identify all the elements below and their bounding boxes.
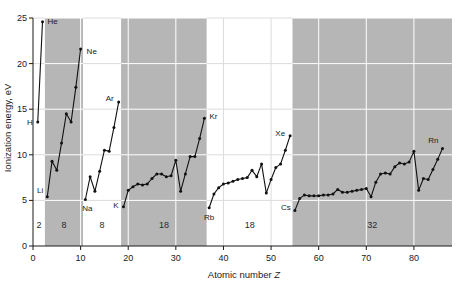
data-point-z-20	[127, 189, 130, 192]
data-point-z-16	[108, 150, 111, 153]
data-point-z-78	[403, 162, 406, 165]
data-point-z-85	[436, 158, 439, 161]
data-point-z-64	[336, 188, 339, 191]
element-label-he: He	[48, 17, 59, 26]
data-point-z-15	[103, 149, 106, 152]
data-point-z-55	[293, 209, 296, 212]
data-point-z-84	[431, 168, 434, 171]
data-point-z-21	[131, 185, 134, 188]
data-point-z-18	[117, 100, 120, 103]
element-label-na: Na	[82, 204, 93, 213]
y-tick-label-0: 0	[22, 241, 27, 251]
data-point-z-59	[312, 194, 315, 197]
data-point-z-83	[427, 178, 430, 181]
period-count-label-5: 18	[245, 220, 255, 230]
element-label-h: H	[27, 118, 33, 127]
x-tick-label-80: 80	[409, 253, 419, 263]
element-label-xe: Xe	[275, 129, 285, 138]
period-count-label-6: 32	[367, 220, 377, 230]
data-point-z-9	[74, 86, 77, 89]
data-point-z-48	[260, 162, 263, 165]
data-point-z-71	[370, 195, 373, 198]
data-point-z-51	[274, 166, 277, 169]
x-axis-symbol: Z	[273, 269, 281, 280]
x-tick-label-70: 70	[361, 253, 371, 263]
data-point-z-73	[379, 172, 382, 175]
y-axis-title: Ionization energy, eV	[2, 83, 13, 172]
data-point-z-72	[374, 181, 377, 184]
data-point-z-80	[412, 150, 415, 153]
data-point-z-31	[179, 190, 182, 193]
data-point-z-11	[84, 198, 87, 201]
data-point-z-53	[284, 149, 287, 152]
data-point-z-70	[365, 187, 368, 190]
element-label-ar: Ar	[106, 94, 114, 103]
data-point-z-52	[279, 162, 282, 165]
period-count-label-4: 18	[159, 220, 169, 230]
element-label-li: Li	[37, 186, 43, 195]
data-point-z-35	[198, 137, 201, 140]
data-point-z-79	[408, 161, 411, 164]
data-point-z-30	[174, 159, 177, 162]
data-point-z-43	[236, 178, 239, 181]
period-count-label-2: 8	[61, 220, 66, 230]
data-point-z-65	[341, 191, 344, 194]
data-point-z-75	[389, 172, 392, 175]
x-tick-label-0: 0	[30, 253, 35, 263]
data-point-z-3	[46, 195, 49, 198]
data-point-z-42	[231, 180, 234, 183]
data-point-z-56	[298, 197, 301, 200]
data-point-z-5	[55, 169, 58, 172]
data-point-z-76	[393, 165, 396, 168]
data-point-z-26	[155, 172, 158, 175]
element-label-rn: Rn	[428, 136, 438, 145]
data-point-z-45	[246, 176, 249, 179]
data-point-z-77	[398, 162, 401, 165]
period-band-4	[121, 18, 207, 246]
x-tick-label-40: 40	[218, 253, 228, 263]
data-point-z-63	[331, 193, 334, 196]
data-point-z-86	[441, 147, 444, 150]
data-point-z-60	[317, 194, 320, 197]
data-point-z-10	[79, 48, 82, 51]
data-point-z-49	[265, 192, 268, 195]
data-point-z-37	[208, 206, 211, 209]
data-point-z-1	[36, 120, 39, 123]
element-label-rb: Rb	[204, 213, 215, 222]
data-point-z-34	[193, 155, 196, 158]
data-point-z-14	[98, 170, 101, 173]
data-point-z-67	[351, 190, 354, 193]
period-count-label-3: 8	[100, 220, 105, 230]
data-point-z-47	[255, 175, 258, 178]
data-point-z-13	[93, 190, 96, 193]
y-tick-label-25: 25	[17, 13, 27, 23]
y-tick-label-15: 15	[17, 104, 27, 114]
data-point-z-69	[360, 188, 363, 191]
y-tick-label-10: 10	[17, 150, 27, 160]
element-label-k: K	[113, 201, 119, 210]
data-point-z-54	[289, 134, 292, 137]
data-point-z-24	[146, 182, 149, 185]
data-point-z-36	[203, 117, 206, 120]
data-point-z-23	[141, 183, 144, 186]
x-tick-label-20: 20	[123, 253, 133, 263]
data-point-z-7	[65, 112, 68, 115]
ionization-energy-chart: 288181832 HHeLiNeNaArKKrRbXeCsRn 0510152…	[0, 0, 456, 284]
chart-canvas: 288181832 HHeLiNeNaArKKrRbXeCsRn 0510152…	[0, 0, 456, 284]
data-point-z-22	[136, 182, 139, 185]
data-point-z-81	[417, 189, 420, 192]
period-band-6	[292, 18, 452, 246]
data-point-z-32	[184, 172, 187, 175]
data-point-z-29	[170, 174, 173, 177]
data-point-z-41	[227, 182, 230, 185]
data-point-z-4	[51, 160, 54, 163]
data-point-z-38	[212, 193, 215, 196]
element-label-cs: Cs	[281, 203, 291, 212]
x-tick-label-60: 60	[314, 253, 324, 263]
data-point-z-12	[89, 175, 92, 178]
period-count-label-1: 2	[36, 220, 41, 230]
data-point-z-33	[189, 155, 192, 158]
data-point-z-40	[222, 182, 225, 185]
x-tick-label-50: 50	[266, 253, 276, 263]
data-point-z-44	[241, 177, 244, 180]
